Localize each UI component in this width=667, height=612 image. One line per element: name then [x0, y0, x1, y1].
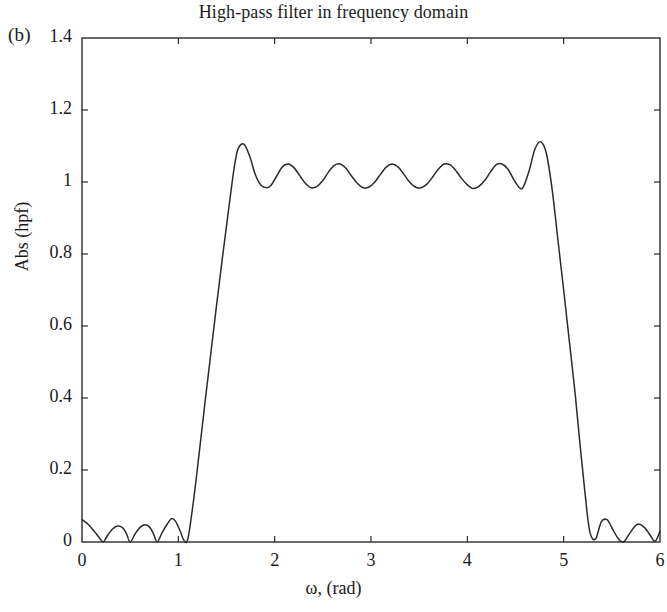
x-tick-label: 6 [635, 550, 667, 571]
x-tick-label: 3 [346, 550, 396, 571]
data-series-group [82, 142, 660, 543]
series-line-abs-hpf [82, 142, 660, 543]
y-tick-label: 1.4 [20, 26, 72, 47]
plot-frame [82, 38, 660, 542]
figure-container: High-pass filter in frequency domain (b)… [0, 0, 667, 612]
y-tick-label: 0.2 [20, 458, 72, 479]
y-tick-label: 1 [20, 170, 72, 191]
x-tick-label: 0 [57, 550, 107, 571]
x-tick-label: 2 [250, 550, 300, 571]
y-tick-label: 1.2 [20, 98, 72, 119]
y-tick-label: 0.6 [20, 314, 72, 335]
y-tick-label: 0.4 [20, 386, 72, 407]
x-tick-label: 5 [539, 550, 589, 571]
axes-frame [82, 38, 660, 542]
y-tick-label: 0 [20, 530, 72, 551]
x-tick-label: 1 [153, 550, 203, 571]
x-tick-label: 4 [442, 550, 492, 571]
plot-area [0, 0, 667, 612]
axis-ticks [82, 38, 660, 542]
y-tick-label: 0.8 [20, 242, 72, 263]
